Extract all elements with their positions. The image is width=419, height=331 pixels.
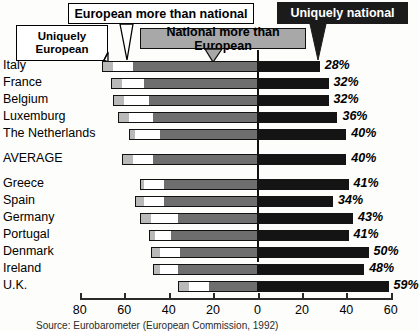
bar-segment-european-more-than-national — [189, 281, 209, 292]
stacked-bar — [140, 179, 349, 190]
row-label-italy: Italy — [3, 59, 26, 72]
stacked-bar — [153, 264, 364, 275]
value-label: 50% — [374, 245, 399, 258]
bar-segment-uniquely-national — [257, 230, 348, 241]
bar-segment-european-more-than-national — [129, 112, 153, 123]
bar-segment-european-more-than-national — [155, 230, 171, 241]
bar-segment-european-more-than-national — [122, 78, 144, 89]
bar-segment-european-more-than-national — [160, 264, 178, 275]
row-label-luxemburg: Luxemburg — [3, 110, 66, 123]
bar-segment-uniquely-national — [257, 196, 333, 207]
axis-tick-label: 20 — [287, 303, 317, 317]
stacked-bar — [149, 230, 349, 241]
chart-row: France32% — [0, 77, 419, 90]
chart-row: Ireland48% — [0, 263, 419, 276]
chart-row: Portugal41% — [0, 229, 419, 242]
bar-segment-national-more-than-european — [164, 179, 257, 190]
axis-tick-label: 0 — [243, 303, 273, 317]
bar-segment-national-more-than-european — [160, 129, 258, 140]
axis-tick-label: 40 — [154, 303, 184, 317]
row-label-u-k: U.K. — [3, 279, 27, 292]
bar-segment-national-more-than-european — [180, 247, 258, 258]
row-label-belgium: Belgium — [3, 93, 48, 106]
axis-tick — [302, 293, 304, 300]
stacked-bar — [151, 247, 369, 258]
stacked-bar — [129, 129, 347, 140]
bar-segment-uniquely-national — [257, 281, 388, 292]
bar-segment-uniquely-european — [153, 264, 160, 275]
pointer-european-more-than-national — [120, 24, 133, 60]
row-label-denmark: Denmark — [3, 245, 54, 258]
bar-segment-european-more-than-national — [135, 129, 159, 140]
bar-segment-european-more-than-national — [133, 154, 153, 165]
bar-segment-uniquely-european — [129, 129, 136, 140]
axis-tick-label: 80 — [65, 303, 95, 317]
bar-segment-uniquely-national — [257, 95, 328, 106]
chart-row: Italy28% — [0, 60, 419, 73]
bar-segment-uniquely-european — [122, 154, 133, 165]
bar-segment-uniquely-european — [149, 230, 156, 241]
bar-segment-european-more-than-national — [124, 95, 148, 106]
value-label: 41% — [354, 177, 379, 190]
row-label-the-netherlands: The Netherlands — [3, 127, 95, 140]
row-label-ireland: Ireland — [3, 262, 41, 275]
source-note: Source: Eurobarometer (European Commissi… — [36, 320, 278, 331]
bar-segment-european-more-than-national — [160, 247, 180, 258]
stacked-bar — [135, 196, 333, 207]
bar-segment-national-more-than-european — [153, 154, 257, 165]
bar-segment-uniquely-national — [257, 78, 328, 89]
bar-segment-national-more-than-european — [178, 213, 258, 224]
bar-segment-uniquely-national — [257, 61, 319, 72]
x-axis-line — [81, 298, 392, 300]
value-label: 48% — [369, 262, 394, 275]
bar-segment-uniquely-european — [111, 78, 122, 89]
stacked-bar — [113, 95, 328, 106]
value-label: 41% — [354, 228, 379, 241]
stacked-bar — [118, 112, 338, 123]
axis-tick — [124, 293, 126, 300]
stacked-bar — [178, 281, 389, 292]
axis-tick-label: 40 — [331, 303, 361, 317]
bar-segment-uniquely-national — [257, 129, 346, 140]
value-label: 36% — [342, 110, 367, 123]
bar-segment-uniquely-european — [140, 213, 151, 224]
bar-segment-national-more-than-european — [209, 281, 258, 292]
axis-tick — [213, 293, 215, 300]
bar-segment-national-more-than-european — [164, 196, 257, 207]
bar-segment-uniquely-national — [257, 264, 364, 275]
value-label: 32% — [334, 76, 359, 89]
bar-segment-uniquely-european — [102, 61, 113, 72]
bar-segment-national-more-than-european — [171, 230, 258, 241]
value-label: 43% — [358, 211, 383, 224]
bar-segment-european-more-than-national — [151, 213, 178, 224]
row-label-spain: Spain — [3, 194, 35, 207]
bar-segment-uniquely-national — [257, 213, 353, 224]
bar-segment-national-more-than-european — [178, 264, 258, 275]
axis-tick-label: 20 — [198, 303, 228, 317]
bar-segment-uniquely-national — [257, 154, 346, 165]
row-label-germany: Germany — [3, 211, 54, 224]
chart-row: Spain34% — [0, 195, 419, 208]
bar-segment-european-more-than-national — [144, 196, 164, 207]
value-label: 28% — [325, 59, 350, 72]
axis-tick-label: 60 — [109, 303, 139, 317]
bar-segment-national-more-than-european — [153, 112, 257, 123]
axis-tick — [80, 293, 82, 300]
stacked-bar — [102, 61, 320, 72]
pointer-uniquely-national — [310, 24, 326, 60]
axis-tick — [258, 293, 260, 300]
bar-segment-uniquely-european — [113, 95, 124, 106]
row-label-greece: Greece — [3, 177, 44, 190]
chart-row: Greece41% — [0, 178, 419, 191]
bar-segment-uniquely-european — [135, 196, 144, 207]
row-label-portugal: Portugal — [3, 228, 50, 241]
stacked-bar — [140, 213, 353, 224]
row-label-france: France — [3, 76, 42, 89]
bar-segment-national-more-than-european — [133, 61, 257, 72]
value-label: 34% — [338, 194, 363, 207]
axis-tick — [169, 293, 171, 300]
bar-segment-european-more-than-national — [144, 179, 164, 190]
stacked-bar — [111, 78, 329, 89]
chart-row: AVERAGE40% — [0, 153, 419, 166]
